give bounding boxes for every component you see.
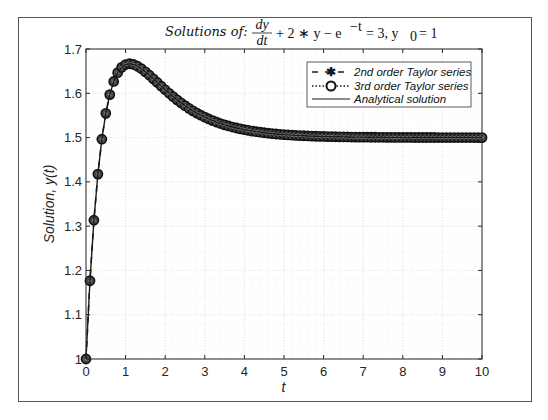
- x-tick-label: 8: [399, 364, 406, 379]
- legend-circle-marker-icon: [327, 82, 336, 91]
- x-tick-labels: 012345678910: [82, 364, 489, 379]
- legend-label: 3rd order Taylor series: [354, 80, 469, 92]
- y-tick-label: 1.6: [64, 86, 82, 101]
- x-tick-label: 3: [201, 364, 208, 379]
- title-tail: = 3, y: [366, 26, 398, 41]
- x-tick-label: 10: [475, 364, 489, 379]
- x-axis-label: t: [282, 379, 287, 395]
- x-tick-label: 5: [280, 364, 287, 379]
- chart-title: Solutions of: dy dt + 2 ∗ y − e −t = 3, …: [165, 17, 437, 48]
- x-tick-label: 6: [320, 364, 327, 379]
- legend-item-2nd-order: ✱ 2nd order Taylor series: [312, 65, 471, 79]
- y-tick-labels: 11.11.21.31.41.51.61.7: [64, 42, 82, 367]
- y-tick-label: 1.5: [64, 130, 82, 145]
- title-rest: + 2 ∗ y − e: [276, 26, 342, 41]
- title-exponent: −t: [350, 19, 362, 34]
- chart: 012345678910 11.11.21.31.41.51.61.7 t So…: [0, 0, 548, 420]
- legend-label: 2nd order Taylor series: [353, 66, 471, 78]
- y-tick-label: 1: [75, 352, 82, 367]
- legend: ✱ 2nd order Taylor series 3rd order Tayl…: [307, 62, 471, 107]
- legend-asterisk-icon: ✱: [326, 65, 336, 79]
- x-tick-label: 0: [82, 364, 89, 379]
- y-tick-label: 1.3: [64, 219, 82, 234]
- title-end: = 1: [419, 26, 437, 41]
- title-subscript: 0: [410, 29, 417, 44]
- title-prefix: Solutions of:: [165, 24, 248, 39]
- x-tick-label: 9: [439, 364, 446, 379]
- legend-label: Analytical solution: [353, 93, 446, 105]
- x-tick-label: 4: [241, 364, 248, 379]
- x-tick-label: 1: [122, 364, 129, 379]
- y-axis-label: Solution, y(t): [41, 165, 57, 244]
- title-frac-den: dt: [257, 33, 269, 48]
- title-frac-num: dy: [255, 17, 269, 32]
- y-tick-label: 1.1: [64, 307, 82, 322]
- y-tick-label: 1.4: [64, 174, 82, 189]
- y-tick-label: 1.7: [64, 42, 82, 57]
- x-tick-label: 7: [360, 364, 367, 379]
- y-tick-label: 1.2: [64, 263, 82, 278]
- x-tick-label: 2: [162, 364, 169, 379]
